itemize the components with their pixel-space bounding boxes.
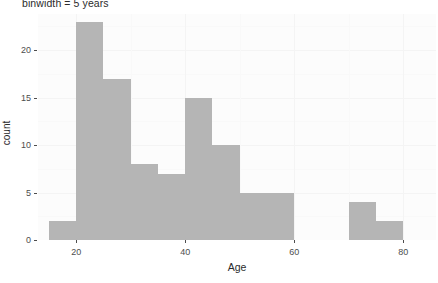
plot-panel [38,14,436,240]
gridline-vertical [294,14,295,240]
y-axis-label: count [1,121,12,145]
histogram-bar [131,164,158,240]
y-axis-tick-label: 15 [21,93,31,103]
y-axis-tick-label: 0 [26,235,31,245]
histogram-bar [240,193,267,240]
histogram-bar [158,174,185,240]
histogram-bar [376,221,403,240]
x-axis-tick-mark [294,240,295,243]
y-axis-tick-label: 5 [26,188,31,198]
x-axis-label: Age [38,261,436,273]
histogram-plot: binwidth = 5 years count Age 05101520204… [0,0,438,283]
chart-title: binwidth = 5 years [22,0,109,9]
x-axis-tick-label: 80 [398,247,408,257]
histogram-bar [76,22,103,240]
x-axis-tick-label: 40 [180,247,190,257]
x-axis-tick-mark [185,240,186,243]
histogram-bar [349,202,376,240]
x-axis-tick-mark [403,240,404,243]
x-axis-tick-label: 60 [289,247,299,257]
histogram-bar [49,221,76,240]
x-axis-tick-label: 20 [71,247,81,257]
gridline-vertical [403,14,404,240]
y-axis-tick-mark [34,193,37,194]
y-axis-tick-mark [34,98,37,99]
y-axis-tick-label: 20 [21,45,31,55]
histogram-bar [212,145,239,240]
y-axis-tick-mark [34,145,37,146]
x-axis-tick-mark [76,240,77,243]
y-axis-tick-mark [34,50,37,51]
histogram-bar [267,193,294,240]
y-axis-tick-mark [34,240,37,241]
y-axis-tick-label: 10 [21,140,31,150]
y-axis-label-wrap: count [0,127,12,139]
histogram-bar [103,79,130,240]
histogram-bar [185,98,212,240]
